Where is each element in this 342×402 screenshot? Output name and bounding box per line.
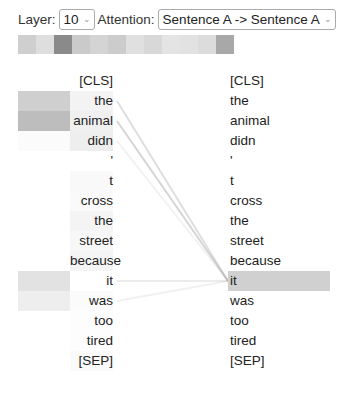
left-heat-cell [18,351,70,371]
left-token[interactable]: street [70,231,113,251]
left-heat-cell [18,131,70,151]
left-token[interactable]: because [70,251,113,271]
right-token[interactable]: the [228,91,330,111]
left-heat-cell [18,211,70,231]
right-token[interactable]: the [228,211,330,231]
right-token[interactable]: because [228,251,330,271]
left-token[interactable]: cross [70,191,113,211]
left-token[interactable]: tired [70,331,113,351]
right-token[interactable]: it [228,271,330,291]
left-heat-cell [18,71,70,91]
attention-line [117,141,228,281]
right-token[interactable]: [CLS] [228,71,330,91]
attention-line [117,101,228,281]
left-heat-cell [18,111,70,131]
left-token[interactable]: [CLS] [70,71,113,91]
left-token[interactable]: was [70,291,113,311]
left-heat-cell [18,151,70,171]
right-token[interactable]: street [228,231,330,251]
left-heat-cell [18,171,70,191]
left-heat-cell [18,331,70,351]
left-token[interactable]: animal [70,111,113,131]
left-heat-cell [18,231,70,251]
left-token[interactable]: didn [70,131,113,151]
right-token[interactable]: ' [228,151,330,171]
left-heat-cell [18,91,70,111]
left-token[interactable]: t [70,171,113,191]
right-token[interactable]: too [228,311,330,331]
right-token[interactable]: tired [228,331,330,351]
left-token[interactable]: it [70,271,113,291]
left-token[interactable]: the [70,211,113,231]
right-token[interactable]: was [228,291,330,311]
left-token[interactable]: [SEP] [70,351,113,371]
left-heat-cell [18,271,70,291]
right-token[interactable]: didn [228,131,330,151]
left-heat-cell [18,191,70,211]
left-token[interactable]: the [70,91,113,111]
left-token[interactable]: too [70,311,113,331]
right-token[interactable]: cross [228,191,330,211]
right-token[interactable]: animal [228,111,330,131]
attention-line [117,281,228,301]
right-token[interactable]: [SEP] [228,351,330,371]
attention-line [117,121,228,281]
left-heat-cell [18,311,70,331]
left-heat-cell [18,251,70,271]
left-heat-cell [18,291,70,311]
left-token[interactable]: ' [70,151,113,171]
right-token[interactable]: t [228,171,330,191]
